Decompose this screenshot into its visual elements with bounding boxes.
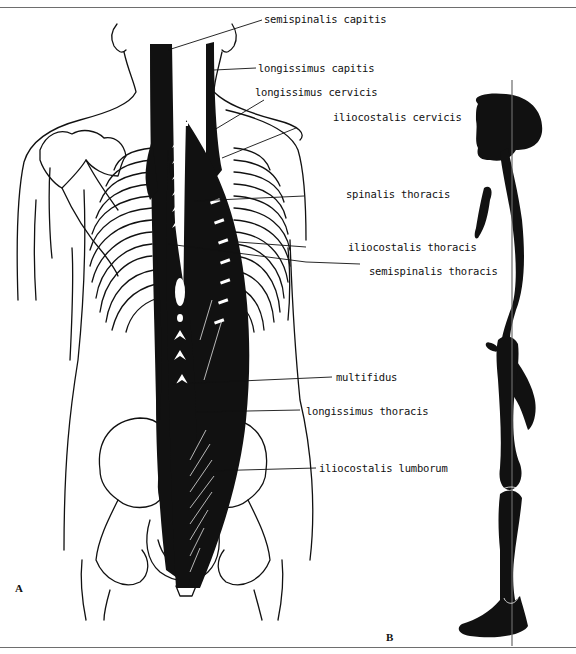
label-semispinalis-capitis: semispinalis capitis (264, 13, 386, 25)
left-scapula-border (62, 188, 118, 276)
panel-letter-b: B (386, 631, 393, 643)
left-scapula-spine (86, 160, 118, 210)
left-humerus-line (49, 168, 52, 258)
right-ear-outline (222, 24, 236, 52)
label-iliocostalis-cervicis: iliocostalis cervicis (333, 111, 462, 123)
label-longissimus-capitis: longissimus capitis (258, 62, 374, 74)
left-ear-outline (112, 24, 126, 52)
femur-silhouette (497, 337, 522, 490)
erector-spinae-muscles (146, 42, 250, 588)
foot-silhouette (459, 596, 528, 637)
sternum-silhouette (475, 187, 492, 239)
label-spinalis-thoracis: spinalis thoracis (346, 188, 450, 200)
label-iliocostalis-lumborum: iliocostalis lumborum (319, 462, 448, 474)
skull-silhouette (476, 93, 542, 160)
left-torso-outline (64, 190, 85, 550)
panel-letter-a: A (15, 582, 23, 594)
label-longissimus-cervicis: longissimus cervicis (255, 86, 377, 98)
label-iliocostalis-thoracis: iliocostalis thoracis (348, 241, 477, 253)
right-torso-outline (290, 240, 313, 560)
tibia-silhouette (499, 491, 523, 604)
left-arm-outline (35, 200, 37, 300)
anatomy-figure (0, 0, 576, 654)
label-semispinalis-thoracis: semispinalis thoracis (369, 265, 498, 277)
left-scapula-acromion (40, 131, 126, 188)
label-multifidus: multifidus (336, 371, 397, 383)
left-side-contour (70, 248, 73, 360)
label-longissimus-thoracis: longissimus thoracis (306, 405, 428, 417)
panel-b-silhouette (459, 93, 542, 637)
